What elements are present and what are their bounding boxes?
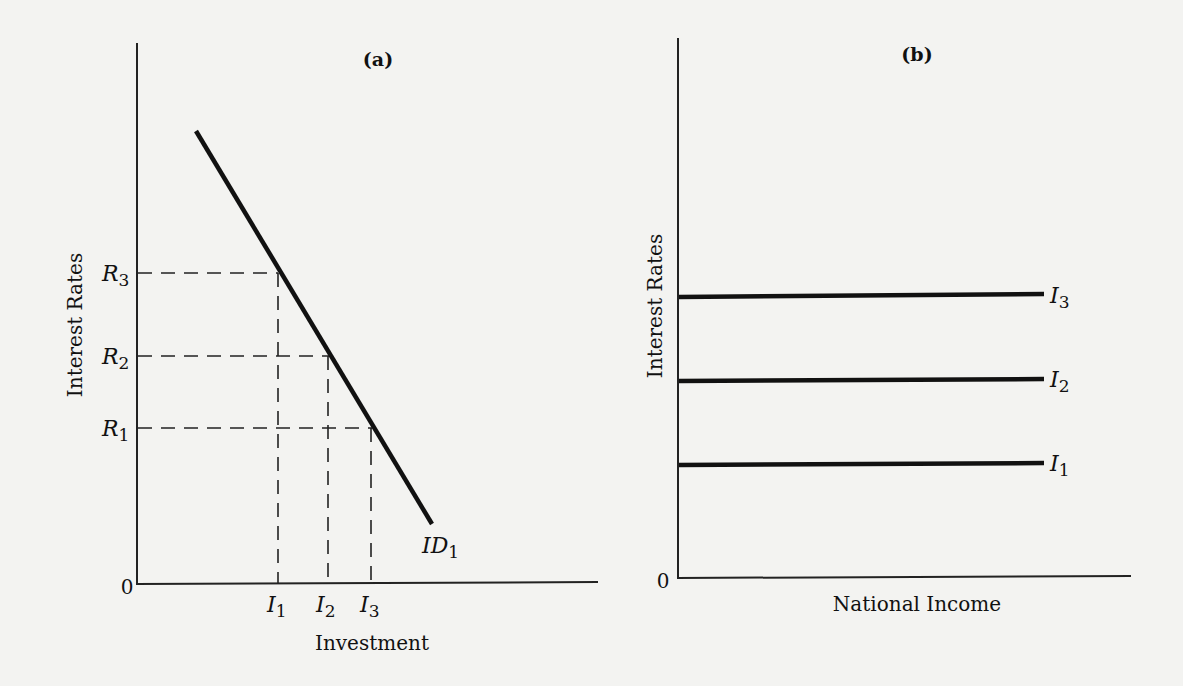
line-label-i1: I1 <box>1049 451 1070 480</box>
panel-a: (a) ID1 R3 R2 R1 I1 I2 <box>63 43 598 655</box>
panel-a-y-label: Interest Rates <box>63 253 87 397</box>
line-label-i3: I3 <box>1049 283 1070 312</box>
x-tick-i2: I2 <box>315 592 336 621</box>
panel-b: (b) I3 I2 I1 0 National Income Interest … <box>643 38 1131 616</box>
horizontal-line-i2 <box>679 379 1044 381</box>
panel-b-y-label: Interest Rates <box>643 234 667 378</box>
horizontal-line-i1 <box>679 463 1044 465</box>
x-tick-i1: I1 <box>266 592 287 621</box>
panel-b-x-axis <box>677 576 1131 578</box>
panel-a-x-axis <box>136 582 598 584</box>
curve-label-id1: ID1 <box>421 533 459 562</box>
panel-a-origin: 0 <box>121 575 134 599</box>
panel-b-origin: 0 <box>657 569 670 593</box>
panel-a-title: (a) <box>363 48 393 70</box>
investment-demand-curve <box>196 131 432 524</box>
horizontal-line-i3 <box>679 294 1044 297</box>
figure: (a) ID1 R3 R2 R1 I1 I2 <box>0 0 1183 686</box>
panel-b-x-label: National Income <box>833 592 1001 616</box>
y-tick-r2: R2 <box>101 344 129 373</box>
y-tick-r1: R1 <box>101 416 129 445</box>
line-label-i2: I2 <box>1049 367 1070 396</box>
x-tick-i3: I3 <box>359 592 380 621</box>
panel-b-title: (b) <box>901 43 932 65</box>
y-tick-r3: R3 <box>101 261 129 290</box>
panel-a-x-label: Investment <box>315 631 429 655</box>
